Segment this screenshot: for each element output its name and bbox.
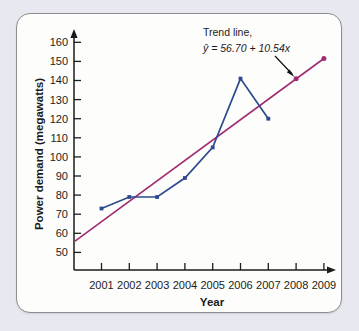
trend-line-annotation: Trend line, ŷ = 56.70 + 10.54x bbox=[202, 26, 295, 77]
y-tick-label: 60 bbox=[56, 227, 68, 239]
y-axis-ticks bbox=[74, 42, 81, 252]
data-series-power-demand bbox=[100, 77, 271, 211]
trend-point-2009 bbox=[321, 56, 326, 61]
data-point-2006 bbox=[239, 77, 243, 81]
x-tick-label: 2004 bbox=[173, 279, 197, 291]
data-point-2007 bbox=[266, 117, 270, 121]
y-axis-title: Power demand (megawatts) bbox=[33, 78, 45, 230]
data-point-2005 bbox=[211, 146, 215, 150]
x-tick-label: 2003 bbox=[145, 279, 169, 291]
x-axis-ticks bbox=[102, 263, 324, 270]
data-point-2001 bbox=[100, 207, 104, 211]
power-demand-chart: 50 60 70 80 90 100 110 120 130 140 150 1… bbox=[17, 14, 343, 314]
data-line bbox=[102, 79, 269, 209]
x-tick-label: 2008 bbox=[284, 279, 308, 291]
x-tick-label: 2005 bbox=[200, 279, 224, 291]
x-axis-title: Year bbox=[200, 296, 225, 308]
data-point-2004 bbox=[183, 176, 187, 180]
annotation-line-2: ŷ = 56.70 + 10.54x bbox=[202, 42, 291, 54]
y-tick-label: 160 bbox=[50, 36, 68, 48]
y-tick-label: 150 bbox=[50, 55, 68, 67]
y-tick-label: 70 bbox=[56, 208, 68, 220]
y-tick-label: 130 bbox=[50, 94, 68, 106]
y-tick-label: 90 bbox=[56, 170, 68, 182]
x-tick-label: 2007 bbox=[256, 279, 280, 291]
y-axis-tick-labels: 50 60 70 80 90 100 110 120 130 140 150 1… bbox=[50, 36, 68, 258]
trend-line bbox=[75, 59, 324, 242]
annotation-equation: ŷ = 56.70 + 10.54 bbox=[202, 42, 285, 54]
y-tick-label: 50 bbox=[56, 246, 68, 258]
annotation-equation-variable: x bbox=[284, 42, 291, 54]
data-point-2003 bbox=[155, 195, 159, 199]
data-point-2002 bbox=[127, 195, 131, 199]
x-tick-label: 2002 bbox=[117, 279, 141, 291]
x-tick-label: 2006 bbox=[228, 279, 252, 291]
trend-point-2008 bbox=[294, 76, 299, 81]
figure-card: 50 60 70 80 90 100 110 120 130 140 150 1… bbox=[16, 13, 342, 313]
y-tick-label: 140 bbox=[50, 74, 68, 86]
y-tick-label: 100 bbox=[50, 151, 68, 163]
trend-line-series bbox=[75, 56, 326, 241]
annotation-line-1: Trend line, bbox=[203, 26, 252, 38]
y-tick-label: 120 bbox=[50, 113, 68, 125]
x-axis-tick-labels: 2001 2002 2003 2004 2005 2006 2007 2008 … bbox=[89, 279, 336, 291]
x-tick-label: 2009 bbox=[312, 279, 336, 291]
y-tick-label: 110 bbox=[50, 132, 68, 144]
x-tick-label: 2001 bbox=[89, 279, 113, 291]
y-tick-label: 80 bbox=[56, 189, 68, 201]
